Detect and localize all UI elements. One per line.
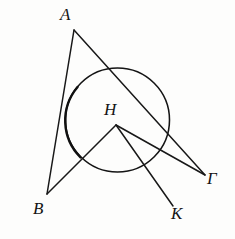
- segment-h-k: [116, 125, 173, 206]
- segment-h-gamma: [116, 125, 205, 175]
- point-label-k: K: [171, 205, 182, 222]
- point-label-b: B: [33, 200, 43, 217]
- point-label-a: A: [60, 6, 70, 23]
- point-label-gamma: Γ: [207, 170, 217, 187]
- main-circle-heavy-left-arc: [65, 87, 80, 158]
- segment-a-b: [47, 30, 74, 194]
- geometry-figure: A B Γ K H: [0, 0, 235, 239]
- point-label-h: H: [104, 101, 116, 118]
- segment-a-gamma: [74, 30, 205, 175]
- main-circle: [66, 68, 170, 172]
